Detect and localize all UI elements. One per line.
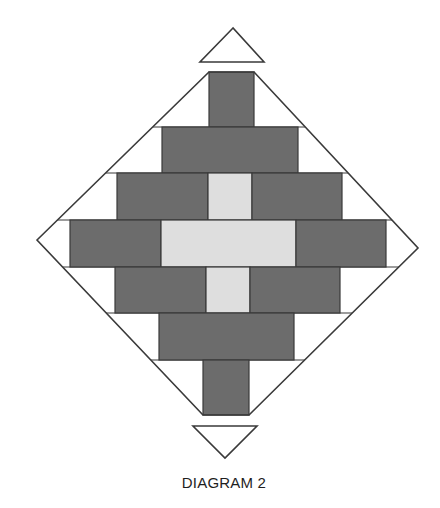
dark-piece [296,220,386,267]
dark-piece [159,313,294,360]
dark-piece [115,267,206,313]
quilt-pieces [0,72,440,415]
dark-piece [117,173,208,220]
dark-piece [203,360,249,415]
dark-piece [70,220,161,267]
top-arrow-triangle [200,28,264,62]
dark-piece [162,127,298,173]
light-piece [206,267,250,313]
diagram-caption: DIAGRAM 2 [0,474,440,491]
light-piece [161,220,296,267]
dark-piece [250,267,340,313]
quilt-diagram [0,0,440,508]
dark-piece [209,72,254,127]
light-piece [208,173,252,220]
bottom-arrow-triangle [193,426,257,458]
dark-piece [252,173,342,220]
